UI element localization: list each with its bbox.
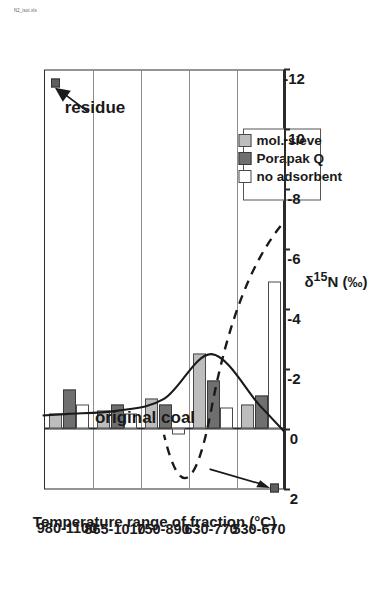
- legend-swatch-mol-sieve: [239, 134, 252, 147]
- legend-swatch-no-adsorbent: [239, 170, 252, 183]
- value-axis-label: -6: [287, 249, 300, 266]
- value-axis-label: -8: [287, 189, 300, 206]
- category-axis-title: Temperature range of fraction (°C): [5, 513, 305, 530]
- value-axis-title: δ15N (‰): [326, 69, 346, 489]
- element-symbol: N: [328, 272, 339, 289]
- value-axis-label: -10: [283, 129, 305, 146]
- units-permil: (‰): [343, 272, 368, 289]
- value-axis-label: -4: [287, 309, 300, 326]
- legend-label-porapak-q: Porapak Q: [257, 151, 325, 166]
- plot-area: original coalresidue mol. sieve Porapak …: [44, 69, 284, 489]
- value-axis-title-text: δ15N (‰): [304, 269, 367, 289]
- chart-stage: original coalresidue mol. sieve Porapak …: [26, 22, 326, 567]
- chart-legend: mol. sieve Porapak Q no adsorbent: [243, 128, 321, 200]
- legend-item: no adsorbent: [239, 169, 317, 184]
- delta-symbol: δ: [304, 272, 313, 289]
- legend-item: Porapak Q: [239, 151, 317, 166]
- mass-number: 15: [314, 269, 328, 283]
- value-axis-label: -2: [287, 369, 300, 386]
- legend-swatch-porapak-q: [239, 152, 252, 165]
- worksheet-filename-tag: N2_isot.xls: [14, 7, 37, 13]
- value-axis-label: 0: [290, 429, 298, 446]
- value-axis-label: -12: [283, 69, 305, 86]
